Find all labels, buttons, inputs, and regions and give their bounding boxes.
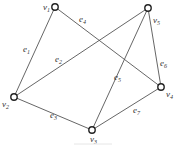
node-label-v3: v3 bbox=[90, 134, 97, 145]
node-v3 bbox=[89, 127, 95, 133]
edge-label-e5: e5 bbox=[114, 72, 121, 83]
edge-label-e1: e1 bbox=[23, 44, 30, 55]
node-label-v2: v2 bbox=[2, 99, 9, 110]
node-v4 bbox=[158, 84, 164, 90]
edge-e4 bbox=[55, 7, 161, 87]
graph-diagram: e1e2e3e4e5e6e7 v1v2v3v4v5 bbox=[0, 0, 176, 146]
edge-label-e3: e3 bbox=[50, 110, 57, 121]
edge-label-e4: e4 bbox=[79, 14, 86, 25]
node-labels-layer: v1v2v3v4v5 bbox=[2, 2, 173, 145]
edge-label-e2: e2 bbox=[55, 54, 62, 65]
node-label-v4: v4 bbox=[166, 89, 173, 100]
node-label-v1: v1 bbox=[43, 2, 50, 13]
node-v1 bbox=[52, 4, 58, 10]
node-v2 bbox=[11, 94, 17, 100]
node-v5 bbox=[145, 5, 151, 11]
edge-label-e6: e6 bbox=[160, 58, 167, 69]
node-label-v5: v5 bbox=[153, 15, 160, 26]
edge-label-e7: e7 bbox=[133, 105, 141, 116]
